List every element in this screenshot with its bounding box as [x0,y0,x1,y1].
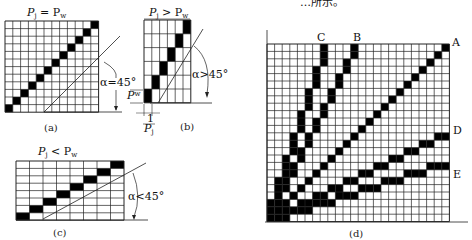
filled-cell [267,207,275,214]
filled-cell [282,207,290,214]
filled-cell [320,199,328,206]
panel-a-title: Pj = Pw [26,6,66,20]
filled-cell [70,183,84,190]
filled-cell [320,103,328,110]
filled-cell [351,51,359,58]
filled-cell [282,214,290,221]
filled-cell [320,44,328,51]
panel-d-caption: (d) [349,228,363,239]
filled-cell [351,133,359,140]
filled-cell [320,162,328,169]
filled-cell [404,81,412,88]
header-fragment: …所示。 [300,0,344,9]
filled-cell [427,140,435,147]
panel-b-angle-label: α>45° [192,68,228,81]
filled-cell [84,176,98,183]
filled-cell [290,148,298,155]
filled-cell [305,140,313,147]
filled-cell [297,207,305,214]
filled-cell [373,185,381,192]
filled-cell [160,61,168,75]
filled-cell [16,213,30,220]
filled-cell [13,97,21,105]
filled-cell [21,89,29,97]
filled-cell [44,67,52,75]
filled-cell [43,198,57,205]
filled-cell [28,82,36,90]
filled-cell [275,185,283,192]
filled-cell [67,44,75,52]
filled-cell [335,185,343,192]
filled-cell [320,51,328,58]
filled-cell [275,214,283,221]
filled-cell [396,155,404,162]
panel-c-grid [16,161,124,220]
panel-b-caption: (b) [180,121,194,132]
filled-cell [328,155,336,162]
filled-cell [404,170,412,177]
panel-b: Pj > Pw α>45° Pw 1 Pj (b) [126,6,228,136]
filled-cell [30,205,44,212]
filled-cell [52,59,60,67]
filled-cell [36,74,44,82]
panel-c-angle-label: α<45° [128,190,164,203]
filled-cell [419,170,427,177]
panel-d-grid [267,44,449,222]
filled-cell [267,214,275,221]
filled-cell [358,125,366,132]
filled-cell [313,125,321,132]
filled-cell [290,162,298,169]
filled-cell [83,29,91,37]
filled-cell [297,199,305,206]
filled-cell [282,177,290,184]
filled-cell [396,88,404,95]
filled-cell [335,192,343,199]
filled-cell [381,162,389,169]
filled-cell [313,199,321,206]
pw-dimension-label: Pw [126,89,140,102]
filled-cell [366,185,374,192]
filled-cell [275,177,283,184]
line-label-c: C [317,31,325,44]
panel-b-grid [144,20,191,103]
filled-cell [419,140,427,147]
filled-cell [335,74,343,81]
filled-cell [381,177,389,184]
filled-cell [373,111,381,118]
filled-cell [152,75,160,89]
filled-cell [411,148,419,155]
filled-cell [5,105,13,113]
panel-b-title: Pj > Pw [148,6,188,20]
filled-cell [427,162,435,169]
filled-cell [328,88,336,95]
filled-cell [305,88,313,95]
panel-c-title: Pj < Pw [37,145,77,159]
filled-cell [335,81,343,88]
filled-cell [282,170,290,177]
filled-cell [282,199,290,206]
filled-cell [290,140,298,147]
filled-cell [75,36,83,44]
filled-cell [351,192,359,199]
filled-cell [144,89,152,103]
filled-cell [297,185,305,192]
filled-cell [366,170,374,177]
filled-cell [167,48,175,62]
filled-cell [60,51,68,59]
filled-cell [175,34,183,48]
panel-a-grid [5,21,99,112]
filled-cell [275,192,283,199]
filled-cell [290,133,298,140]
filled-cell [389,155,397,162]
filled-cell [297,155,305,162]
filled-cell [305,207,313,214]
filled-cell [419,66,427,73]
filled-cell [305,103,313,110]
filled-cell [183,20,191,34]
line-label-b: B [353,31,361,44]
filled-cell [313,66,321,73]
filled-cell [97,168,111,175]
filled-cell [328,199,336,206]
filled-cell [267,199,275,206]
filled-cell [411,74,419,81]
